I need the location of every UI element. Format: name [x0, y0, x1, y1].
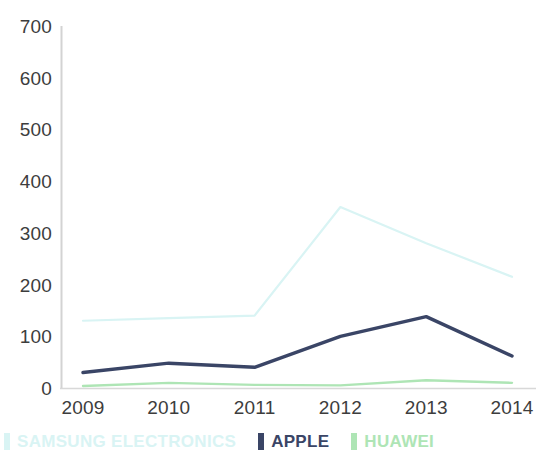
legend-swatch-icon: [258, 433, 264, 450]
series-line: [83, 380, 512, 386]
x-tick-label: 2009: [48, 398, 118, 419]
x-axis-tick-labels: 200920102011201220132014: [62, 398, 540, 424]
data-series-group: [83, 207, 512, 386]
legend-label: SAMSUNG ELECTRONICS: [17, 433, 236, 450]
legend-swatch-icon: [351, 433, 357, 450]
legend-label: APPLE: [271, 433, 329, 450]
legend-label: HUAWEI: [364, 433, 434, 450]
series-line: [83, 317, 512, 373]
x-tick-label: 2012: [305, 398, 375, 419]
legend-swatch-icon: [4, 433, 10, 450]
x-tick-label: 2010: [134, 398, 204, 419]
x-tick-label: 2014: [477, 398, 540, 419]
legend-item[interactable]: APPLE: [258, 433, 329, 450]
legend-item[interactable]: SAMSUNG ELECTRONICS: [4, 433, 236, 450]
x-tick-label: 2013: [391, 398, 461, 419]
series-line: [83, 207, 512, 321]
legend-item[interactable]: HUAWEI: [351, 433, 434, 450]
x-tick-label: 2011: [220, 398, 290, 419]
plot-area: [0, 0, 540, 453]
chart-legend: SAMSUNG ELECTRONICSAPPLEHUAWEI: [0, 430, 540, 453]
line-chart: 0100200300400500600700 20092010201120122…: [0, 0, 540, 453]
